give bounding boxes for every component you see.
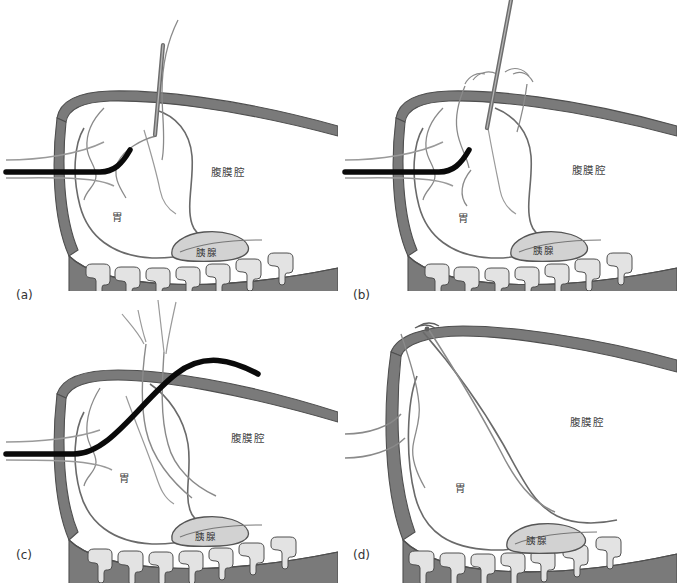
abdominal-wall-left [393, 118, 417, 256]
stomach-inner-curve [401, 334, 425, 488]
label-pancreas: 胰腺 [196, 247, 218, 258]
label-peritoneal-cavity: 腹膜腔 [572, 164, 607, 176]
panel-a: 腹膜腔 胃 胰腺 [0, 0, 338, 291]
panel-c: 腹膜腔 胃 胰腺 [0, 292, 338, 583]
stomach-inner-curve [423, 108, 443, 200]
label-pancreas: 胰腺 [533, 245, 555, 256]
label-peritoneal-cavity: 腹膜腔 [231, 432, 266, 444]
stomach-lesser-curve [487, 122, 516, 214]
panel-d-anatomy: 腹膜腔 胃 胰腺 [345, 323, 677, 583]
panel-c-anatomy: 腹膜腔 胃 胰腺 [6, 300, 338, 583]
label-stomach: 胃 [119, 472, 131, 484]
label-peritoneal-cavity: 腹膜腔 [211, 166, 246, 178]
label-stomach: 胃 [458, 212, 470, 224]
figure-container: 腹膜腔 胃 胰腺 (a) [0, 0, 677, 583]
panel-caption-c: (c) [16, 548, 32, 562]
label-stomach: 胃 [455, 482, 467, 494]
panel-d: 腹膜腔 胃 胰腺 [339, 292, 677, 583]
suture-thread-loop [462, 170, 471, 206]
catheter-thin-upper [6, 430, 100, 442]
stomach-inner-curve [84, 108, 104, 200]
panel-a-anatomy: 腹膜腔 胃 胰腺 [6, 20, 338, 291]
panel-caption-d: (d) [353, 548, 370, 562]
abdominal-wall-left [54, 394, 78, 540]
label-stomach: 胃 [112, 211, 124, 223]
panel-b: 腹膜腔 胃 胰腺 [339, 0, 677, 291]
suture-thread-right [517, 84, 527, 132]
label-peritoneal-cavity: 腹膜腔 [570, 416, 605, 428]
suture-thread-loop [116, 136, 156, 198]
panel-b-anatomy: 腹膜腔 胃 胰腺 [345, 0, 677, 291]
abdominal-wall-top [391, 326, 677, 372]
label-pancreas: 胰腺 [195, 531, 217, 542]
needle-highlight [487, 0, 511, 128]
stomach-inner-curve [84, 388, 100, 486]
abdominal-wall-top [57, 370, 338, 422]
label-pancreas: 胰腺 [526, 535, 548, 546]
stomach-lesser-curve [429, 330, 555, 512]
abdominal-wall-left [386, 352, 415, 540]
suture-tails [122, 300, 176, 354]
stomach-lesser-curve [144, 130, 176, 214]
suture-thread [162, 20, 178, 160]
stomach-greater-curve [495, 108, 575, 242]
abdominal-wall-left [54, 118, 78, 256]
